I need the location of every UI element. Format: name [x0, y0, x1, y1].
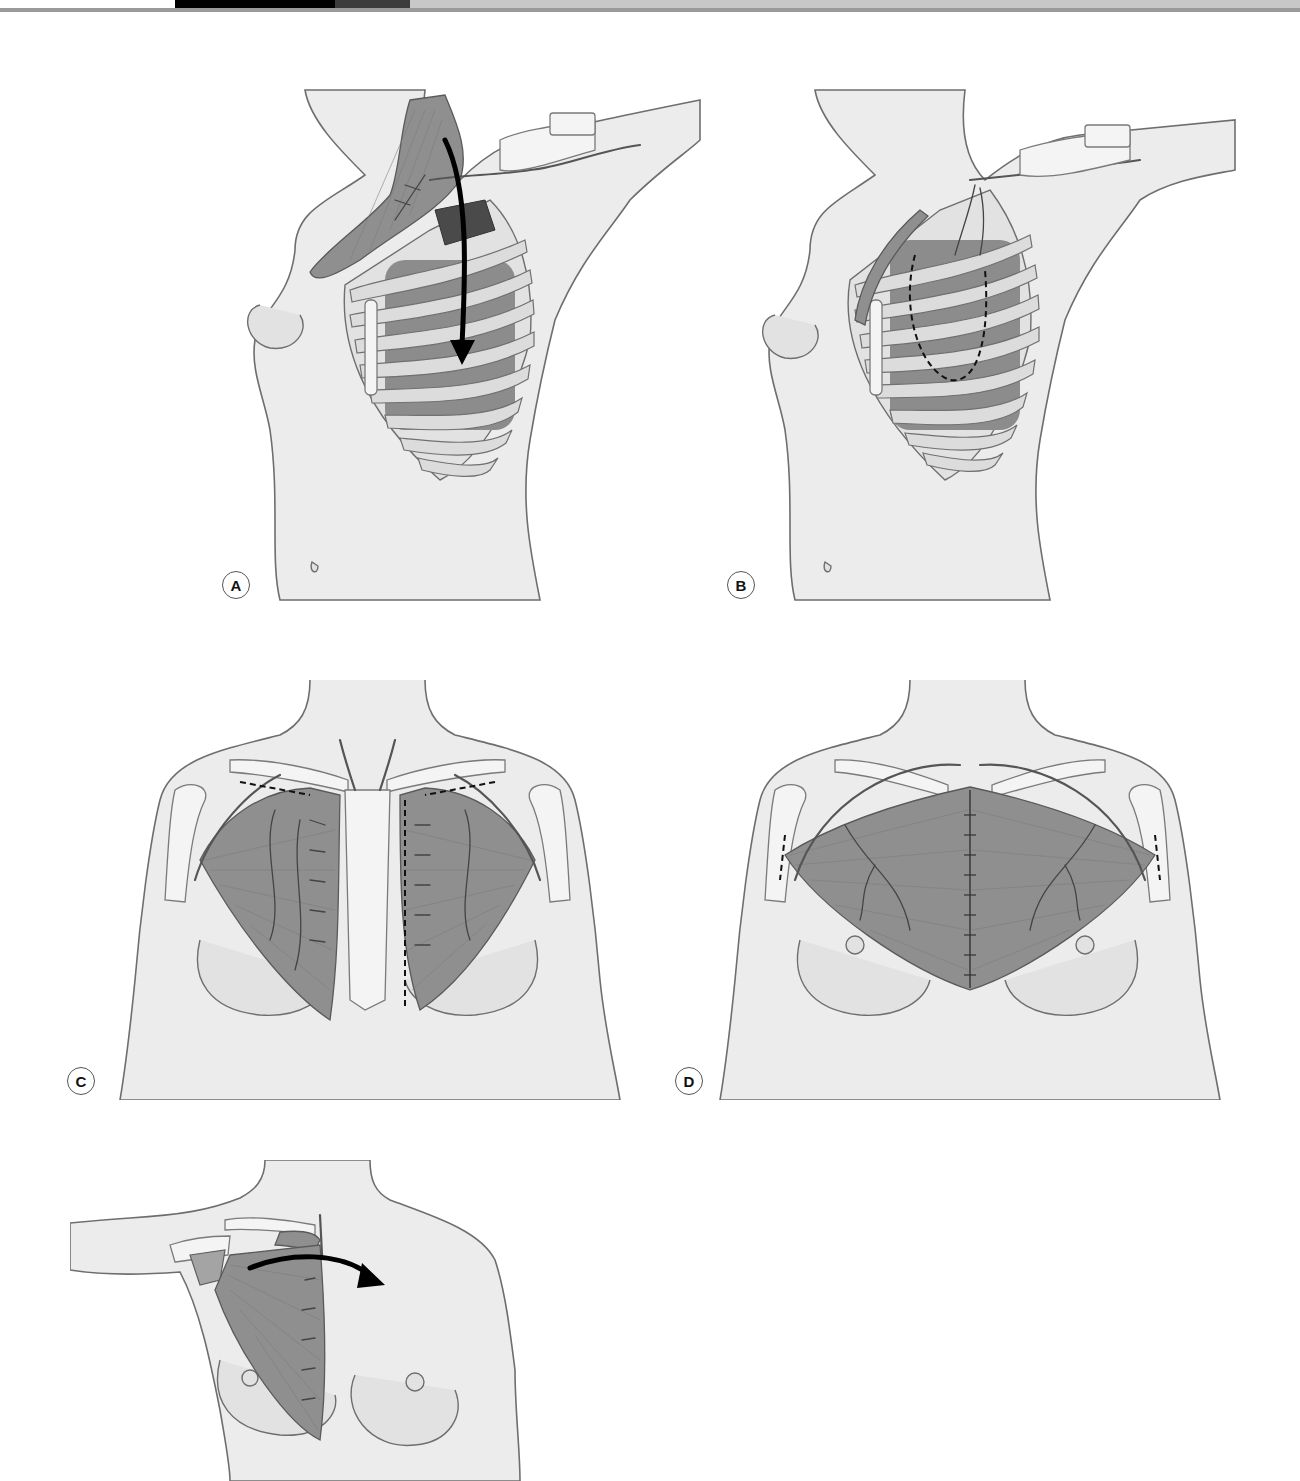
panel-e	[70, 1160, 590, 1481]
panel-label-d: D	[675, 1067, 703, 1095]
panel-label-b: B	[727, 571, 755, 599]
header-rule	[0, 8, 1300, 12]
sternum	[345, 790, 390, 1010]
panel-a-illustration	[200, 80, 720, 620]
header-segment-dark	[335, 0, 410, 8]
panel-d-illustration	[700, 680, 1240, 1100]
panel-d: D	[700, 680, 1240, 1100]
panel-c: C	[100, 680, 640, 1100]
panel-label-c: C	[67, 1067, 95, 1095]
panel-label-a: A	[222, 571, 250, 599]
header-segment-black	[175, 0, 335, 8]
panel-a: A	[200, 80, 720, 620]
panel-b: B	[740, 80, 1300, 620]
panel-b-illustration	[740, 80, 1300, 620]
header-segment-light	[410, 0, 1300, 8]
header-segment-white	[0, 0, 175, 8]
panel-c-illustration	[100, 680, 640, 1100]
panel-e-illustration	[70, 1160, 590, 1481]
header-bar	[0, 0, 1300, 8]
